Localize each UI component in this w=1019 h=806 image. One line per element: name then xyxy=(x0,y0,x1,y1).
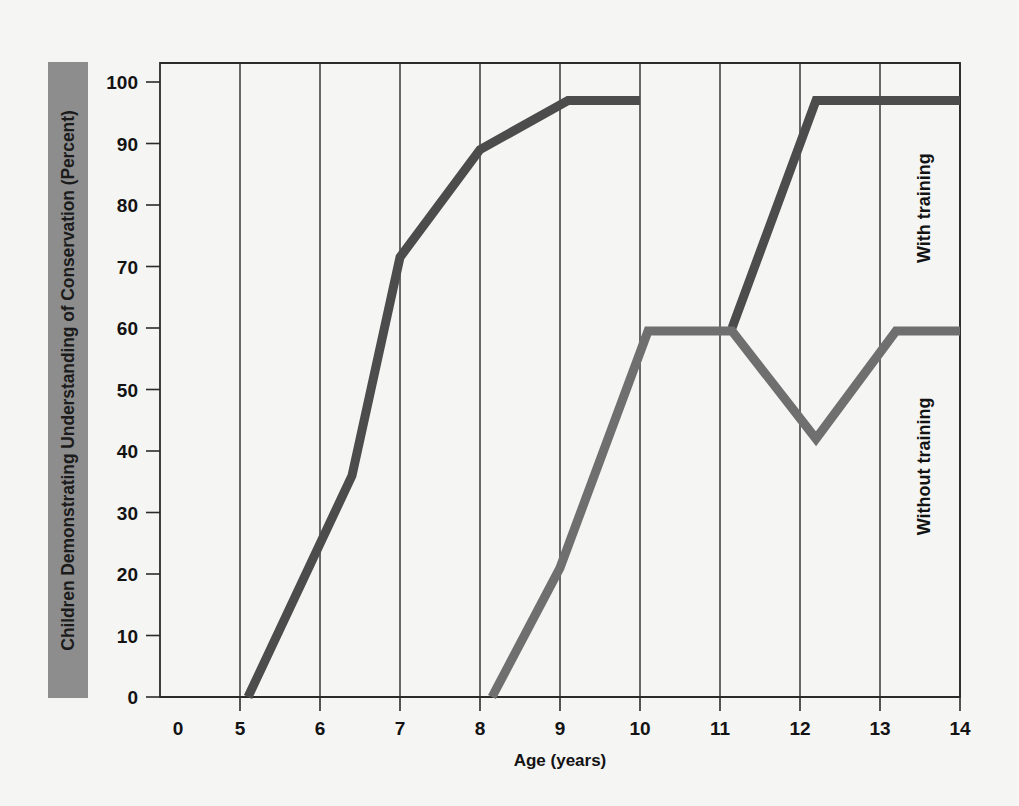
y-tick-label-50: 50 xyxy=(117,380,138,401)
y-axis-ticks: 0102030405060708090100 xyxy=(106,72,160,708)
y-tick-label-20: 20 xyxy=(117,564,138,585)
x-tick-label-8: 8 xyxy=(475,718,486,739)
y-tick-label-0: 0 xyxy=(127,687,138,708)
x-tick-label-0: 0 xyxy=(173,718,184,739)
x-axis-ticks: 0567891011121314 xyxy=(173,697,971,739)
y-tick-label-100: 100 xyxy=(106,72,138,93)
x-tick-label-11: 11 xyxy=(710,718,731,739)
y-tick-label-40: 40 xyxy=(117,441,138,462)
x-tick-label-9: 9 xyxy=(555,718,566,739)
x-tick-label-13: 13 xyxy=(869,718,890,739)
y-tick-label-10: 10 xyxy=(117,626,138,647)
y-tick-label-30: 30 xyxy=(117,503,138,524)
series-label-with-training: With training xyxy=(914,153,934,263)
line-chart-plot: 0102030405060708090100 0567891011121314 … xyxy=(0,0,1019,806)
series-line-without-training xyxy=(492,331,960,697)
y-axis-title: Children Demonstrating Understanding of … xyxy=(58,110,79,650)
series-label-without-training: Without training xyxy=(914,397,934,535)
y-tick-label-60: 60 xyxy=(117,318,138,339)
data-series-group xyxy=(248,100,960,697)
x-axis-title: Age (years) xyxy=(514,751,607,770)
x-tick-label-14: 14 xyxy=(949,718,971,739)
y-tick-label-90: 90 xyxy=(117,134,138,155)
x-tick-label-12: 12 xyxy=(789,718,810,739)
x-tick-label-7: 7 xyxy=(395,718,406,739)
y-tick-label-70: 70 xyxy=(117,257,138,278)
y-tick-label-80: 80 xyxy=(117,195,138,216)
series-labels-group: With trainingWithout training xyxy=(914,153,934,535)
chart-figure: Children Demonstrating Understanding of … xyxy=(0,0,1019,806)
x-tick-label-6: 6 xyxy=(315,718,326,739)
x-tick-label-10: 10 xyxy=(629,718,650,739)
gridlines-group xyxy=(240,63,960,697)
x-tick-label-5: 5 xyxy=(235,718,246,739)
series-line-with-training xyxy=(248,100,640,697)
y-axis-title-band: Children Demonstrating Understanding of … xyxy=(48,62,88,698)
